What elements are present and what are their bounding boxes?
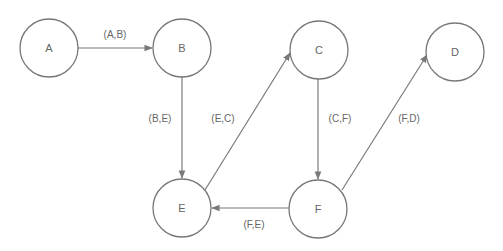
edge-label: (A,B) [104,29,127,40]
edge-label: (C,F) [329,113,352,124]
node-a[interactable]: A [20,19,78,77]
graph-canvas: (A,B) (B,E) (E,C) (C,F) (F,D) (F,E) A B … [0,0,503,251]
edge-e-c: (E,C) [205,53,290,190]
edge-label: (F,D) [398,113,420,124]
edge-f-e: (F,E) [212,208,289,230]
edge-c-f: (C,F) [318,79,351,179]
node-label: D [451,46,459,58]
node-b[interactable]: B [153,19,211,77]
node-c[interactable]: C [290,21,348,79]
node-f[interactable]: F [289,180,347,238]
node-label: B [178,42,185,54]
node-d[interactable]: D [426,23,484,81]
edge-f-d: (F,D) [342,55,427,190]
node-label: E [178,202,185,214]
edge-a-b: (A,B) [78,29,152,48]
node-label: C [315,44,323,56]
node-e[interactable]: E [153,179,211,237]
edge-label: (F,E) [243,219,264,230]
edge-label: (B,E) [149,113,172,124]
node-label: F [315,203,322,215]
edge-b-e: (B,E) [149,77,182,178]
edge-label: (E,C) [211,113,234,124]
node-label: A [45,42,53,54]
